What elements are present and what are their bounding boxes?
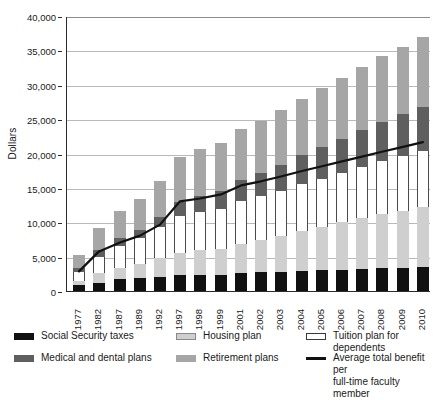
legend-label: Tuition plan for dependents (333, 330, 438, 354)
plot-area (66, 17, 430, 292)
y-tick-mark (58, 17, 62, 18)
y-tick-label: 40,000 (27, 12, 56, 23)
y-tick-mark (58, 86, 62, 87)
x-tick-label: 2007 (355, 309, 367, 330)
legend-label: Medical and dental plans (41, 352, 152, 364)
x-tick-label: 1992 (153, 309, 165, 330)
legend-label: Social Security taxes (41, 330, 134, 342)
y-tick-label: 0 (51, 287, 56, 298)
y-tick-mark (58, 51, 62, 52)
legend-swatch-retirement-icon (176, 355, 196, 362)
legend-label: Retirement plans (203, 352, 279, 364)
x-tick-label: 2005 (315, 309, 327, 330)
y-tick-label: 25,000 (27, 115, 56, 126)
y-tick-mark (58, 120, 62, 121)
y-tick-label: 10,000 (27, 218, 56, 229)
legend-swatch-line-icon (306, 355, 326, 362)
legend-item-tuition[interactable]: Tuition plan for dependents (306, 330, 438, 354)
trend-line-path (79, 142, 423, 271)
x-tick-label: 2010 (416, 309, 428, 330)
legend-swatch-housing-icon (176, 333, 196, 340)
x-tick-label: 2008 (375, 309, 387, 330)
x-tick-label: 2001 (234, 309, 246, 330)
y-tick-label: 35,000 (27, 46, 56, 57)
legend-swatch-medical-icon (14, 355, 34, 362)
x-tick-label: 1998 (193, 309, 205, 330)
legend-label: Housing plan (203, 330, 261, 342)
y-tick-label: 15,000 (27, 183, 56, 194)
x-tick-label: 1982 (92, 309, 104, 330)
x-tick-label: 2006 (335, 309, 347, 330)
y-tick-label: 5,000 (32, 252, 56, 263)
y-tick-mark (58, 223, 62, 224)
x-tick-label: 2002 (254, 309, 266, 330)
x-tick-label: 2004 (295, 309, 307, 330)
y-tick-mark (58, 155, 62, 156)
legend-item-retirement[interactable]: Retirement plans (176, 352, 279, 364)
chart-legend: Social Security taxesMedical and dental … (14, 330, 438, 386)
x-tick-label: 1977 (72, 309, 84, 330)
average-total-benefit-line (67, 17, 431, 292)
legend-item-line[interactable]: Average total benefit per full-time facu… (306, 352, 438, 400)
x-tick-label: 1989 (133, 309, 145, 330)
y-tick-label: 30,000 (27, 80, 56, 91)
x-tick-label: 2003 (274, 309, 286, 330)
y-axis-ticks: 05,00010,00015,00020,00025,00030,00035,0… (0, 17, 62, 292)
x-axis-labels: 1977198219871989199219971998199920012002… (66, 294, 430, 330)
y-tick-label: 20,000 (27, 149, 56, 160)
x-tick-label: 1997 (173, 309, 185, 330)
y-tick-mark (58, 258, 62, 259)
x-tick-label: 1987 (113, 309, 125, 330)
legend-swatch-tuition-icon (306, 333, 326, 340)
y-tick-mark (58, 189, 62, 190)
x-tick-label: 1999 (214, 309, 226, 330)
legend-item-social[interactable]: Social Security taxes (14, 330, 134, 342)
legend-label: Average total benefit per full-time facu… (333, 352, 438, 400)
legend-item-medical[interactable]: Medical and dental plans (14, 352, 152, 364)
legend-item-housing[interactable]: Housing plan (176, 330, 261, 342)
y-tick-mark (58, 292, 62, 293)
legend-swatch-social-icon (14, 333, 34, 340)
x-tick-label: 2009 (396, 309, 408, 330)
